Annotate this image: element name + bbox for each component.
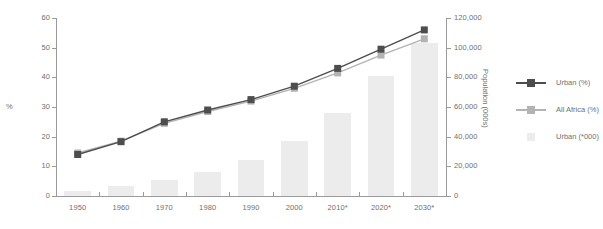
marker-2030star — [421, 26, 428, 33]
marker-1960 — [118, 138, 125, 145]
marker-1990 — [248, 96, 255, 103]
line-all-africa — [78, 39, 425, 153]
chart-container: % Population (000s) 0102030405060 020,00… — [0, 0, 603, 229]
legend-bar-swatch-icon — [527, 133, 535, 141]
legend-item-label: Urban (%) — [556, 78, 590, 88]
marker-1980 — [204, 107, 211, 114]
legend-square-marker-icon — [527, 106, 535, 114]
legend-item-label: Urban (*000) — [556, 132, 599, 142]
marker-1970 — [161, 118, 168, 125]
marker-2020star — [378, 46, 385, 53]
line-series-group — [0, 0, 603, 229]
marker-1950 — [74, 151, 81, 158]
legend-square-marker-icon — [527, 79, 535, 87]
marker-2000 — [291, 83, 298, 90]
marker-2010star — [334, 65, 341, 72]
marker-2030star — [421, 35, 428, 42]
legend-item-label: All Africa (%) — [556, 105, 599, 115]
line-urban — [78, 30, 425, 155]
